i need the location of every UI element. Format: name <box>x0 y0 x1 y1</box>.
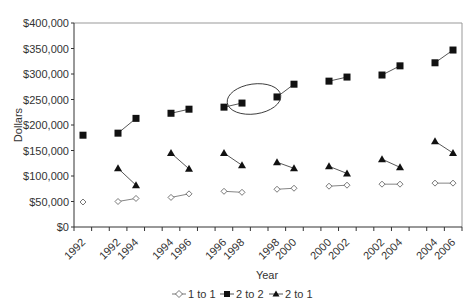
diamond-marker-icon <box>450 180 456 186</box>
square-marker-icon <box>397 62 404 69</box>
triangle-marker-icon <box>114 164 122 171</box>
diamond-marker-icon <box>168 194 174 200</box>
y-tick-label: $200,000 <box>23 119 69 131</box>
diamond-marker-icon <box>397 181 403 187</box>
x-tick-label: 2004 <box>379 236 405 262</box>
x-tick-label: 1992 <box>62 236 88 262</box>
y-tick-label: $50,000 <box>29 196 69 208</box>
y-tick-label: $150,000 <box>23 145 69 157</box>
series-2to1 <box>114 137 457 188</box>
square-marker-icon <box>344 74 351 81</box>
x-tick-label: 1996 <box>168 236 194 262</box>
diamond-marker-icon <box>326 183 332 189</box>
square-marker-icon <box>379 72 386 79</box>
square-marker-icon <box>432 59 439 66</box>
triangle-marker-icon <box>325 162 333 169</box>
triangle-marker-icon <box>378 155 386 162</box>
diamond-marker-icon <box>176 291 183 298</box>
series-2to2 <box>80 47 457 139</box>
square-marker-icon <box>326 78 333 85</box>
square-marker-icon <box>133 115 140 122</box>
y-tick-label: $350,000 <box>23 43 69 55</box>
series-layer <box>80 47 458 205</box>
legend-label-2to1: 2 to 1 <box>285 288 313 300</box>
square-marker-icon <box>115 130 122 137</box>
triangle-marker-icon <box>220 149 228 156</box>
y-tick-label: $400,000 <box>23 17 69 29</box>
square-marker-icon <box>450 47 457 54</box>
y-axis-title: Dollars <box>12 107 24 142</box>
square-marker-icon <box>239 100 246 107</box>
square-marker-icon <box>80 132 87 139</box>
plot-area <box>74 23 462 227</box>
diamond-marker-icon <box>239 189 245 195</box>
square-marker-icon <box>291 81 298 88</box>
diamond-marker-icon <box>344 182 350 188</box>
x-axis-title: Year <box>256 269 279 281</box>
triangle-marker-icon <box>343 169 351 176</box>
diamond-marker-icon <box>274 186 280 192</box>
square-marker-icon <box>186 106 193 113</box>
y-axis: $0$50,000$100,000$150,000$200,000$250,00… <box>23 17 74 233</box>
triangle-marker-icon <box>238 161 246 168</box>
triangle-marker-icon <box>273 158 281 165</box>
diamond-marker-icon <box>115 199 121 205</box>
x-tick-label: 1994 <box>115 236 141 262</box>
x-tick-label: 2002 <box>326 236 352 262</box>
x-axis: 1992199219941994199619961998199820002000… <box>62 227 462 262</box>
legend-label-1to1: 1 to 1 <box>188 288 216 300</box>
y-tick-label: $250,000 <box>23 94 69 106</box>
x-tick-label: 1998 <box>221 236 247 262</box>
diamond-marker-icon <box>432 180 438 186</box>
chart-svg: $0$50,000$100,000$150,000$200,000$250,00… <box>0 0 475 305</box>
diamond-marker-icon <box>133 195 139 201</box>
triangle-marker-icon <box>290 164 298 171</box>
triangle-marker-icon <box>396 163 404 170</box>
legend: 1 to 1 2 to 2 2 to 1 <box>172 288 313 300</box>
diamond-marker-icon <box>291 185 297 191</box>
triangle-marker-icon <box>431 137 439 144</box>
y-tick-label: $0 <box>57 221 69 233</box>
diamond-marker-icon <box>221 188 227 194</box>
legend-item-2to1: 2 to 1 <box>269 288 313 300</box>
diamond-marker-icon <box>80 199 86 205</box>
x-tick-label: 2006 <box>432 236 458 262</box>
square-marker-icon <box>221 104 228 111</box>
triangle-marker-icon <box>449 149 457 156</box>
square-marker-icon <box>224 291 230 297</box>
square-marker-icon <box>168 110 175 117</box>
diamond-marker-icon <box>186 191 192 197</box>
chart-container: $0$50,000$100,000$150,000$200,000$250,00… <box>0 0 475 305</box>
triangle-marker-icon <box>167 149 175 156</box>
legend-item-2to2: 2 to 2 <box>220 288 264 300</box>
y-tick-label: $100,000 <box>23 170 69 182</box>
y-tick-label: $300,000 <box>23 68 69 80</box>
diamond-marker-icon <box>379 181 385 187</box>
legend-label-2to2: 2 to 2 <box>236 288 264 300</box>
square-marker-icon <box>274 93 281 100</box>
legend-item-1to1: 1 to 1 <box>172 288 216 300</box>
